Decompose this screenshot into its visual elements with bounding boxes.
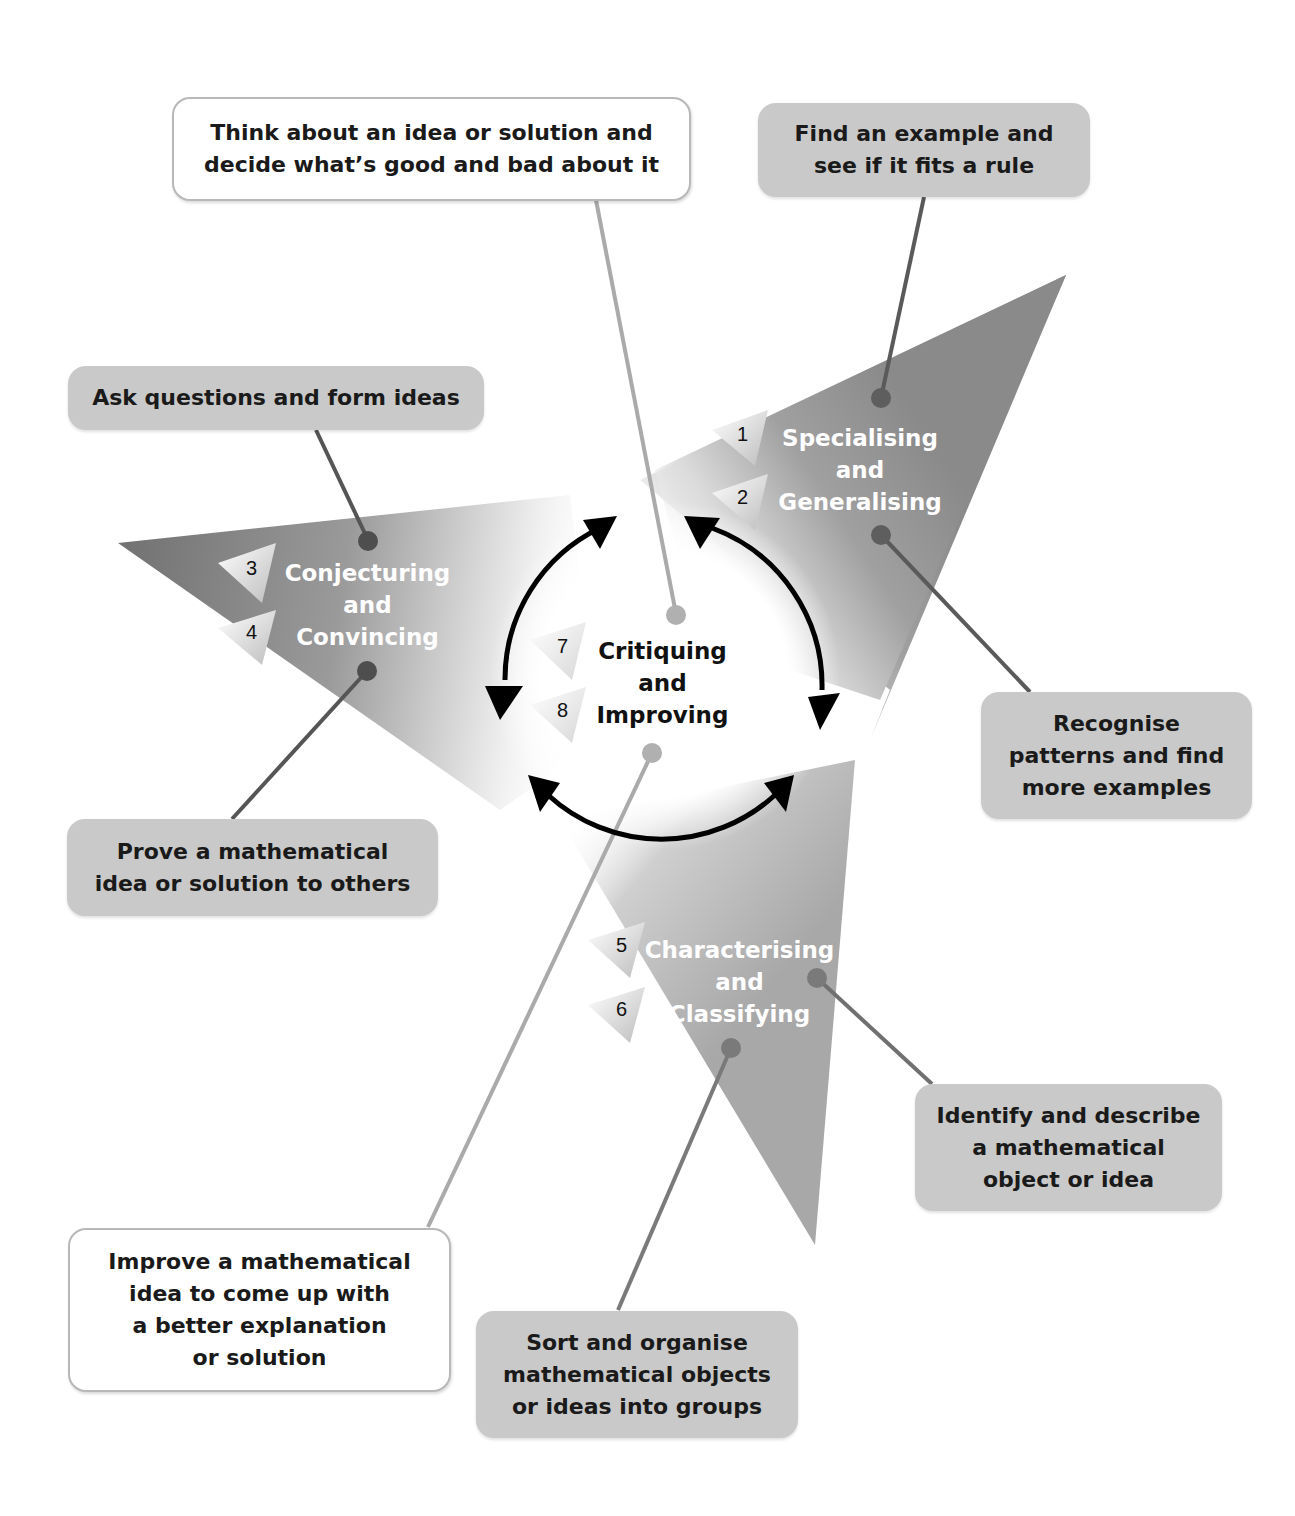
- description-text: Improve a mathematical idea to come up w…: [108, 1246, 410, 1374]
- connector-dot: [721, 1038, 741, 1058]
- description-text: Sort and organise mathematical objects o…: [503, 1327, 771, 1423]
- number-label: 3: [246, 557, 257, 580]
- connector-dot: [357, 661, 377, 681]
- description-text: Recognise patterns and find more example…: [1009, 708, 1224, 804]
- number-label: 7: [557, 635, 568, 658]
- number-label: 1: [737, 423, 748, 446]
- description-recognise-patterns-box: Recognise patterns and find more example…: [981, 692, 1252, 819]
- description-ask-questions-box: Ask questions and form ideas: [68, 366, 484, 430]
- number-label: 5: [616, 934, 627, 957]
- number-label: 4: [246, 621, 257, 644]
- description-text: Prove a mathematical idea or solution to…: [95, 836, 411, 900]
- skill-specialising-generalising: Specialising and Generalising: [770, 422, 950, 518]
- number-label: 8: [557, 699, 568, 722]
- connector-dot: [642, 743, 662, 763]
- skill-critiquing-improving: Critiquing and Improving: [590, 635, 735, 731]
- connector-dot: [871, 388, 891, 408]
- skill-conjecturing-convincing: Conjecturing and Convincing: [280, 557, 455, 653]
- description-prove-idea-box: Prove a mathematical idea or solution to…: [67, 819, 438, 916]
- description-critique-box: Think about an idea or solution and deci…: [172, 97, 691, 201]
- connector-dot: [666, 605, 686, 625]
- description-improve-idea-box: Improve a mathematical idea to come up w…: [68, 1228, 451, 1392]
- description-text: Think about an idea or solution and deci…: [204, 117, 659, 181]
- description-find-example-box: Find an example and see if it fits a rul…: [758, 103, 1090, 197]
- connector-dot: [358, 531, 378, 551]
- number-label: 6: [616, 998, 627, 1021]
- description-text: Ask questions and form ideas: [92, 382, 460, 414]
- skill-characterising-classifying: Characterising and Classifying: [642, 934, 837, 1030]
- connector-dot: [871, 525, 891, 545]
- description-sort-organise-box: Sort and organise mathematical objects o…: [476, 1311, 798, 1438]
- description-identify-describe-box: Identify and describe a mathematical obj…: [915, 1084, 1222, 1211]
- mathematical-thinking-diagram: 1 2 3 4 5 6 7 8 Specialising and General…: [0, 0, 1295, 1516]
- description-text: Identify and describe a mathematical obj…: [937, 1100, 1201, 1196]
- number-label: 2: [737, 486, 748, 509]
- description-text: Find an example and see if it fits a rul…: [795, 118, 1054, 182]
